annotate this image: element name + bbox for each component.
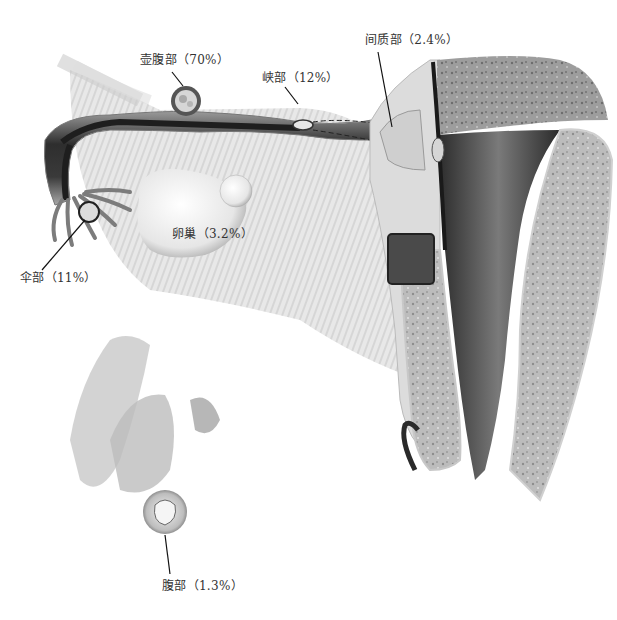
label-fimbria: 伞部（11%） [20, 268, 97, 285]
uterus [370, 56, 612, 500]
ampulla-pregnancy-sac [171, 86, 201, 116]
abdominal-pregnancy-area [70, 336, 220, 534]
leader-abdominal [165, 535, 170, 574]
label-ovary: 卵巢（3.2%） [172, 224, 253, 241]
fimbria-pregnancy-sac [79, 202, 99, 222]
label-abdominal: 腹部（1.3%） [162, 576, 243, 593]
leader-fimbria [42, 220, 85, 270]
label-ampulla: 壶腹部（70%） [140, 50, 229, 67]
anatomy-illustration [0, 0, 617, 620]
label-isthmus: 峡部（12%） [262, 68, 339, 85]
leader-isthmus [285, 87, 298, 104]
leader-ampulla [172, 72, 183, 86]
label-interstitial: 间质部（2.4%） [365, 30, 458, 47]
